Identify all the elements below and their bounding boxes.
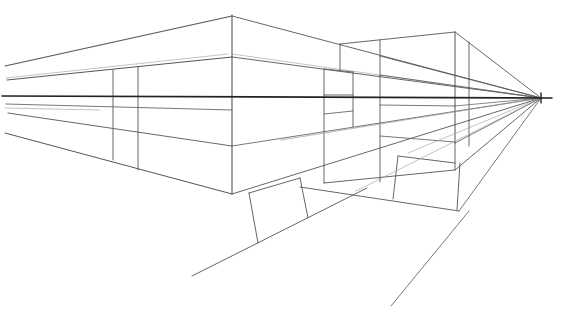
perspective-drawing: One-point perspective sketch	[0, 0, 562, 309]
drawing-svg	[0, 0, 562, 309]
